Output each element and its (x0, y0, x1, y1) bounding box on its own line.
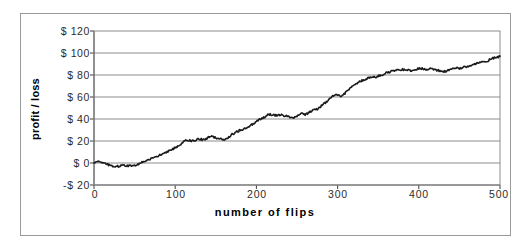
chart-figure: profit / loss $ 120 $ 100 $ 80 $ 60 $ 40… (0, 0, 530, 248)
axis-ticks (90, 31, 500, 189)
data-series-line (94, 56, 500, 167)
plot-area-border (94, 31, 500, 185)
plot-canvas (0, 0, 530, 248)
